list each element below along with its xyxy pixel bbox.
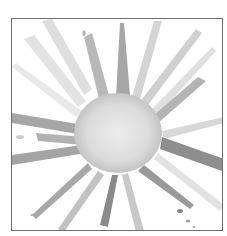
watercolor-starburst-image: [12, 19, 223, 231]
starburst-center: [74, 93, 162, 173]
artwork-frame: [11, 18, 223, 231]
